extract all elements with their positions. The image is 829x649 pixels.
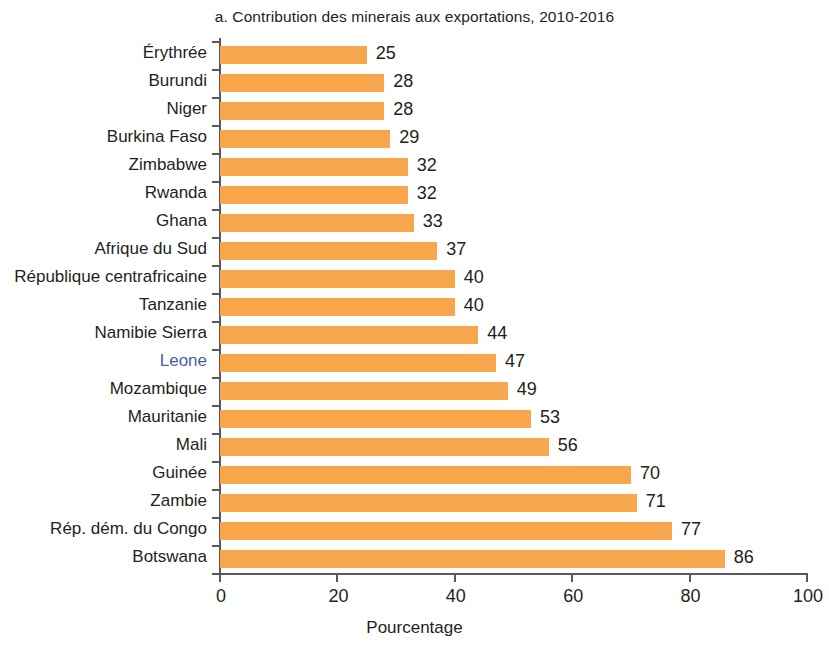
- y-axis-tick: [212, 153, 220, 155]
- category-label-wrap: Namibie Sierra: [0, 321, 220, 350]
- category-label-wrap: Botswana: [0, 545, 220, 574]
- y-axis-tick: [212, 265, 220, 267]
- bar-value-label: 49: [517, 379, 537, 400]
- bar-value-label: 32: [417, 183, 437, 204]
- bar: [220, 522, 672, 540]
- bar-row: 33Ghana: [220, 209, 807, 237]
- bar-row: 53Mauritanie: [220, 405, 807, 433]
- bar-row: 32Rwanda: [220, 181, 807, 209]
- y-axis-tick: [212, 237, 220, 239]
- bar-row: 40République centrafricaine: [220, 265, 807, 293]
- bar: [220, 186, 408, 204]
- category-label-wrap: Mauritanie: [0, 405, 220, 434]
- bar-value-label: 40: [464, 267, 484, 288]
- bar-row: 28Niger: [220, 97, 807, 125]
- bar-row: 49Mozambique: [220, 377, 807, 405]
- bar: [220, 326, 478, 344]
- category-label-wrap: Mozambique: [0, 377, 220, 406]
- bar: [220, 158, 408, 176]
- category-label-wrap: République centrafricaine: [0, 265, 220, 294]
- category-label-wrap: Érythrée: [0, 41, 220, 70]
- bar: [220, 466, 631, 484]
- bar-value-label: 28: [393, 71, 413, 92]
- plot-area: 25Érythrée28Burundi28Niger29Burkina Faso…: [220, 41, 807, 573]
- category-label-wrap: Zambie: [0, 489, 220, 518]
- x-axis-tick: [689, 573, 691, 582]
- y-axis-tick: [212, 97, 220, 99]
- bar-value-label: 47: [505, 351, 525, 372]
- bar-row: 37Afrique du Sud: [220, 237, 807, 265]
- bar: [220, 214, 414, 232]
- bar: [220, 46, 367, 64]
- bar: [220, 242, 437, 260]
- category-label: Ghana: [156, 210, 207, 232]
- bar-row: 25Érythrée: [220, 41, 807, 69]
- category-label: Zambie: [150, 490, 207, 512]
- category-label: Afrique du Sud: [95, 238, 207, 260]
- category-label-wrap: Afrique du Sud: [0, 237, 220, 266]
- bar-value-label: 29: [399, 127, 419, 148]
- chart-title: a. Contribution des minerais aux exporta…: [0, 8, 829, 26]
- x-axis-tick: [571, 573, 573, 582]
- bar-row: 56Mali: [220, 433, 807, 461]
- bar-value-label: 86: [734, 547, 754, 568]
- y-axis-tick: [212, 125, 220, 127]
- x-axis-tick-label: 20: [308, 586, 368, 607]
- category-label-wrap: Tanzanie: [0, 293, 220, 322]
- bar: [220, 382, 508, 400]
- bar: [220, 270, 455, 288]
- category-label-wrap: Rép. dém. du Congo: [0, 517, 220, 546]
- category-label-wrap: Niger: [0, 97, 220, 126]
- bar: [220, 298, 455, 316]
- y-axis-tick: [212, 489, 220, 491]
- x-axis-tick: [336, 573, 338, 582]
- y-axis-tick: [212, 517, 220, 519]
- bar-value-label: 77: [681, 519, 701, 540]
- bar-value-label: 28: [393, 99, 413, 120]
- x-axis-tick: [454, 573, 456, 582]
- category-label: Mauritanie: [128, 406, 207, 428]
- bar-value-label: 71: [646, 491, 666, 512]
- bar: [220, 102, 384, 120]
- category-label: Érythrée: [143, 42, 207, 64]
- bar: [220, 550, 725, 568]
- bar-value-label: 37: [446, 239, 466, 260]
- y-axis-tick: [212, 433, 220, 435]
- category-label: Guinée: [152, 462, 207, 484]
- category-label-wrap: Guinée: [0, 461, 220, 490]
- x-axis-tick: [219, 573, 221, 582]
- category-label: Namibie Sierra: [95, 322, 207, 344]
- bar: [220, 494, 637, 512]
- category-label: Zimbabwe: [129, 154, 207, 176]
- category-label: Burundi: [148, 70, 207, 92]
- category-label-wrap: Mali: [0, 433, 220, 462]
- bar-row: 47Leone: [220, 349, 807, 377]
- x-axis-tick-label: 0: [191, 586, 251, 607]
- bar-value-label: 25: [376, 43, 396, 64]
- category-label: Rép. dém. du Congo: [50, 518, 207, 540]
- chart-figure: a. Contribution des minerais aux exporta…: [0, 0, 829, 649]
- category-label-wrap: Burkina Faso: [0, 125, 220, 154]
- category-label: République centrafricaine: [14, 266, 207, 288]
- y-axis-tick: [212, 377, 220, 379]
- bar-row: 32Zimbabwe: [220, 153, 807, 181]
- bar-row: 29Burkina Faso: [220, 125, 807, 153]
- y-axis-tick: [212, 69, 220, 71]
- x-axis-title: Pourcentage: [0, 618, 829, 638]
- y-axis-tick: [212, 41, 220, 43]
- y-axis-tick: [212, 181, 220, 183]
- category-label: Mozambique: [110, 378, 207, 400]
- bar-row: 71Zambie: [220, 489, 807, 517]
- x-axis-tick-label: 100: [778, 586, 829, 607]
- y-axis-tick: [212, 209, 220, 211]
- bar-value-label: 56: [558, 435, 578, 456]
- category-label-wrap: Leone: [0, 349, 220, 378]
- x-axis-tick: [806, 573, 808, 582]
- y-axis-tick: [212, 545, 220, 547]
- y-axis-tick: [212, 349, 220, 351]
- category-label-wrap: Zimbabwe: [0, 153, 220, 182]
- bar: [220, 130, 390, 148]
- category-label: Tanzanie: [139, 294, 207, 316]
- bar-row: 40Tanzanie: [220, 293, 807, 321]
- x-axis-tick-label: 80: [661, 586, 721, 607]
